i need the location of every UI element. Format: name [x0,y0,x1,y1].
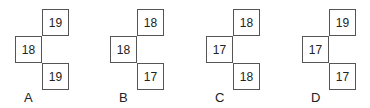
figure-b-bottom-box: 17 [137,63,164,90]
figure-a-left-box: 18 [15,36,42,63]
figure-b-top-box: 18 [137,9,164,36]
figure-a-bottom-box: 19 [42,63,69,90]
figure-c: 18 17 18 C [206,0,266,108]
figure-a-label: A [24,90,33,105]
figure-b-label: B [119,90,128,105]
figure-c-label: C [215,90,224,105]
figure-b: 18 18 17 B [110,0,170,108]
figure-c-top-box: 18 [233,9,260,36]
figure-d-left-box: 17 [302,36,329,63]
figure-a: 19 18 19 A [15,0,75,108]
figure-c-left-box: 17 [206,36,233,63]
figure-c-bottom-box: 18 [233,63,260,90]
figure-d-label: D [311,90,320,105]
figure-b-left-box: 18 [110,36,137,63]
figure-d-top-box: 19 [329,9,356,36]
figure-d-bottom-box: 17 [329,63,356,90]
figure-a-top-box: 19 [42,9,69,36]
figure-d: 19 17 17 D [302,0,362,108]
